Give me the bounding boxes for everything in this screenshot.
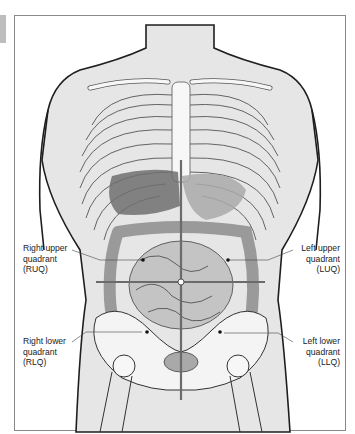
label-luq: Left upper quadrant (LUQ) xyxy=(290,243,340,275)
abdominal-quadrants-illustration xyxy=(0,0,355,434)
right-femoral-head xyxy=(113,355,135,377)
label-llq: Left lower quadrant (LLQ) xyxy=(290,336,340,368)
label-rlq: Right lower quadrant (RLQ) xyxy=(23,336,66,368)
label-ruq: Right upper quadrant (RUQ) xyxy=(23,243,67,275)
left-femoral-head xyxy=(227,355,249,377)
liver xyxy=(109,170,180,215)
umbilicus xyxy=(178,279,184,285)
